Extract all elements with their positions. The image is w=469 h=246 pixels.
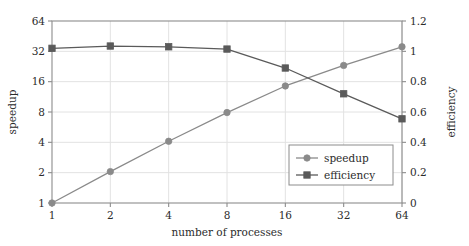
chart-legend[interactable]: speedupefficiency xyxy=(289,145,393,185)
data-point-efficiency xyxy=(49,45,55,51)
y-tick-label: 1 xyxy=(38,197,45,209)
y-tick-label: 16 xyxy=(32,75,46,87)
y-tick-label: 64 xyxy=(32,15,46,27)
y-tick-label: 8 xyxy=(38,106,45,118)
y2-tick-label: 0.2 xyxy=(410,166,427,178)
speedup-efficiency-chart: 1248163264 1248163264 00.20.40.60.811.2 … xyxy=(0,0,469,246)
data-point-speedup xyxy=(282,83,288,89)
y2-tick-label: 1.2 xyxy=(410,15,427,27)
legend-marker-speedup xyxy=(304,155,310,161)
x-tick-label: 2 xyxy=(107,209,114,221)
y2-tick-label: 0.6 xyxy=(410,106,427,118)
data-point-efficiency xyxy=(165,44,171,50)
data-point-efficiency xyxy=(282,65,288,71)
data-point-efficiency xyxy=(107,43,113,49)
data-point-speedup xyxy=(165,138,171,144)
data-point-speedup xyxy=(399,44,405,50)
chart-container: 1248163264 1248163264 00.20.40.60.811.2 … xyxy=(0,0,469,246)
data-point-efficiency xyxy=(340,91,346,97)
y-tick-label: 4 xyxy=(38,136,45,148)
legend-label-efficiency: efficiency xyxy=(324,169,375,181)
y2-tick-label: 0 xyxy=(410,197,417,209)
y2-tick-label: 1 xyxy=(410,45,417,57)
legend-label-speedup: speedup xyxy=(324,152,369,164)
x-tick-label: 16 xyxy=(279,209,293,221)
y2-tick-label: 0.4 xyxy=(410,136,427,148)
data-point-speedup xyxy=(340,62,346,68)
y-tick-label: 32 xyxy=(32,45,45,57)
x-tick-label: 8 xyxy=(224,209,231,221)
data-point-speedup xyxy=(107,168,113,174)
y-tick-label: 2 xyxy=(38,166,45,178)
x-axis-title: number of processes xyxy=(172,226,283,238)
y-axis-title: speedup xyxy=(6,89,18,134)
x-tick-label: 64 xyxy=(395,209,409,221)
x-tick-label: 4 xyxy=(165,209,172,221)
data-point-efficiency xyxy=(224,46,230,52)
legend-marker-efficiency xyxy=(304,172,310,178)
x-tick-label: 1 xyxy=(49,209,56,221)
x-tick-label: 32 xyxy=(337,209,350,221)
data-point-speedup xyxy=(49,200,55,206)
data-point-speedup xyxy=(224,109,230,115)
y2-tick-label: 0.8 xyxy=(410,75,427,87)
data-point-efficiency xyxy=(399,116,405,122)
y2-axis-title: efficiency xyxy=(445,86,457,137)
